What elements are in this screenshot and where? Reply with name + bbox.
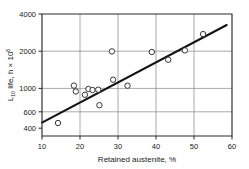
data-point [182, 48, 187, 53]
x-tick-label-50: 50 [190, 142, 198, 151]
y-tick-label-400: 400 [23, 124, 36, 133]
y-axis-title-group: L10 life, h × 106 [5, 49, 16, 102]
y-tick-label-600: 600 [23, 108, 36, 117]
data-point [110, 77, 115, 82]
x-tick-label-10: 10 [38, 142, 46, 151]
data-point [73, 89, 78, 94]
data-point [90, 87, 95, 92]
y-axis-title-middle: life, h × 10 [6, 51, 15, 91]
data-point [166, 57, 171, 62]
data-point [55, 120, 60, 125]
data-point [82, 92, 87, 97]
x-axis-title: Retained austenite, % [98, 155, 176, 164]
x-axis-title-group: Retained austenite, % [98, 155, 176, 164]
x-tick-label-60: 60 [228, 142, 236, 151]
data-point [96, 87, 101, 92]
fitted-trend-line [42, 25, 227, 123]
x-tick-label-30: 30 [114, 142, 122, 151]
y-tick-labels: 4000 2000 1000 600 400 [19, 10, 36, 133]
y-axis-title: L10 life, h × 106 [5, 49, 16, 102]
data-point [109, 49, 114, 54]
y-tick-label-4000: 4000 [19, 10, 36, 19]
y-tick-label-2000: 2000 [19, 47, 36, 56]
data-point [71, 83, 76, 88]
x-tick-label-20: 20 [76, 142, 84, 151]
x-tick-labels: 10 20 30 40 50 60 [38, 142, 236, 151]
y-tick-label-1000: 1000 [19, 84, 36, 93]
data-point [97, 103, 102, 108]
x-tick-label-40: 40 [152, 142, 160, 151]
data-point [125, 83, 130, 88]
trend-line-group [42, 25, 227, 123]
chart-figure: 4000 2000 1000 600 400 10 20 30 40 50 60… [0, 0, 249, 169]
data-point [200, 31, 205, 36]
data-point [149, 49, 154, 54]
y-axis-title-superscript: 6 [5, 49, 11, 52]
scatter-plot-svg: 4000 2000 1000 600 400 10 20 30 40 50 60… [0, 0, 249, 169]
